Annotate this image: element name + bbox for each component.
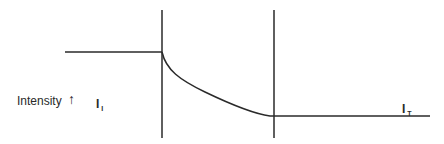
up-arrow-icon: ↑ bbox=[68, 91, 75, 107]
transmitted-intensity-label: IT bbox=[402, 99, 412, 117]
label-subscript: I bbox=[101, 105, 103, 112]
label-main: I bbox=[96, 97, 99, 111]
y-axis-label: Intensity bbox=[17, 94, 62, 108]
label-subscript: T bbox=[407, 110, 411, 117]
intensity-diagram bbox=[0, 0, 444, 144]
incident-intensity-label: II bbox=[96, 94, 103, 112]
label-main: I bbox=[402, 102, 405, 116]
decay-curve bbox=[162, 52, 274, 116]
